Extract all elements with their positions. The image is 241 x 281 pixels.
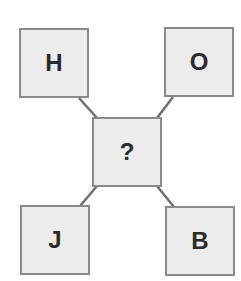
connector-bottom-right: [157, 186, 174, 207]
connector-top-left: [79, 98, 97, 118]
box-label: O: [190, 50, 209, 74]
box-top-right: O: [164, 27, 234, 97]
connector-top-right: [157, 97, 173, 118]
box-bottom-right: B: [165, 206, 235, 276]
box-label: B: [191, 229, 208, 253]
puzzle-diagram: H O ? J B: [0, 0, 241, 281]
connector-bottom-left: [80, 186, 97, 206]
box-bottom-left: J: [20, 205, 90, 275]
box-center: ?: [92, 117, 162, 187]
box-label: J: [48, 228, 61, 252]
box-top-left: H: [19, 28, 89, 98]
box-label: H: [45, 51, 62, 75]
question-mark: ?: [120, 140, 135, 164]
